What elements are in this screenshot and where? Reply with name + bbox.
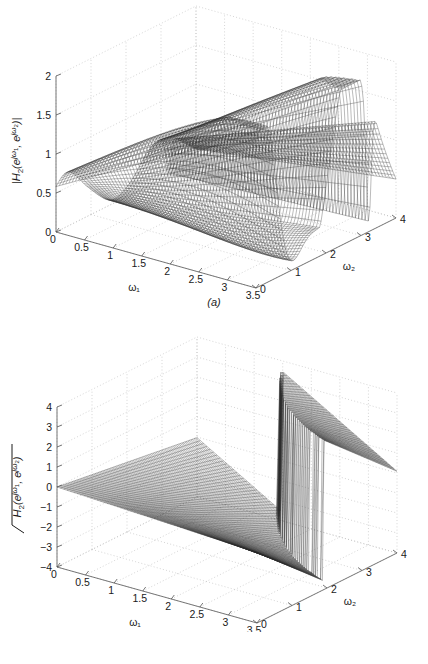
surface-mesh-v-lines xyxy=(57,373,397,581)
svg-text:3: 3 xyxy=(222,281,228,293)
svg-text:1: 1 xyxy=(296,601,302,613)
axis-label-omega2: ω₂ xyxy=(343,260,355,272)
svg-text:2: 2 xyxy=(331,583,337,595)
svg-text:1: 1 xyxy=(46,461,52,473)
svg-text:3: 3 xyxy=(223,616,229,628)
svg-text:4: 4 xyxy=(46,401,52,413)
svg-text:−2: −2 xyxy=(40,521,52,533)
svg-text:0.5: 0.5 xyxy=(74,241,89,253)
panel-phase-plot: −4−3−2−10123400.511.522.533.501234ω₁ω₂H2… xyxy=(0,332,428,664)
svg-text:2: 2 xyxy=(46,441,52,453)
surface-mesh-u-lines xyxy=(57,373,397,581)
svg-text:0.5: 0.5 xyxy=(36,187,51,199)
svg-text:1: 1 xyxy=(108,584,114,596)
svg-text:4: 4 xyxy=(401,548,407,560)
axis-label-omega2: ω₂ xyxy=(344,595,356,607)
caption-a: (a) xyxy=(0,296,428,308)
svg-text:−3: −3 xyxy=(40,541,52,553)
svg-text:2: 2 xyxy=(164,265,170,277)
svg-text:1.5: 1.5 xyxy=(36,109,51,121)
panel-magnitude-plot: 00.511.5200.511.522.533.501234ω₁ω₂|H2(ej… xyxy=(0,0,428,332)
svg-text:2.5: 2.5 xyxy=(189,273,204,285)
axis-label-omega1: ω₁ xyxy=(128,281,140,293)
magnitude-surface-chart: 00.511.5200.511.522.533.501234ω₁ω₂|H2(ej… xyxy=(0,0,428,300)
svg-text:0: 0 xyxy=(261,618,267,630)
svg-text:0.5: 0.5 xyxy=(75,576,90,588)
svg-text:1: 1 xyxy=(295,266,301,278)
phase-surface-chart: −4−3−2−10123400.511.522.533.501234ω₁ω₂H2… xyxy=(0,332,428,632)
svg-text:2.5: 2.5 xyxy=(190,608,205,620)
svg-text:3: 3 xyxy=(365,231,371,243)
svg-text:2: 2 xyxy=(330,248,336,260)
svg-text:0: 0 xyxy=(46,481,52,493)
svg-text:0: 0 xyxy=(51,568,57,580)
svg-text:1: 1 xyxy=(45,148,51,160)
angle-symbol-slash xyxy=(12,525,24,533)
svg-text:2: 2 xyxy=(45,70,51,82)
svg-text:3: 3 xyxy=(366,566,372,578)
svg-text:0: 0 xyxy=(50,233,56,245)
svg-text:4: 4 xyxy=(400,213,406,225)
svg-text:1.5: 1.5 xyxy=(131,257,146,269)
svg-text:3.5: 3.5 xyxy=(247,624,262,632)
svg-text:1.5: 1.5 xyxy=(132,592,147,604)
svg-text:2: 2 xyxy=(165,600,171,612)
svg-text:0: 0 xyxy=(260,283,266,295)
svg-text:3: 3 xyxy=(46,421,52,433)
svg-text:−1: −1 xyxy=(40,501,52,513)
svg-text:1: 1 xyxy=(107,249,113,261)
axis-label-omega1: ω₁ xyxy=(129,616,141,628)
axis-label-magnitude: |H2(ejω1, ejω2)| xyxy=(9,117,25,184)
